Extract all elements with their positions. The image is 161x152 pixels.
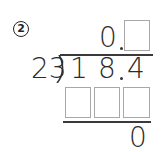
product-answer-box-3[interactable] — [123, 87, 150, 118]
quotient-tenths-answer-box[interactable] — [124, 20, 150, 51]
product-answer-box-2[interactable] — [94, 87, 120, 118]
divisor: 23 — [31, 55, 67, 83]
product-answer-box-1[interactable] — [65, 87, 91, 118]
dividend-digit-ones: 1 — [70, 55, 88, 83]
dividend-digit-tens: 8 — [98, 55, 116, 83]
dividend-digit-tenths: 4 — [127, 55, 145, 83]
quotient-decimal-point — [120, 47, 123, 50]
dividend-decimal-point — [120, 77, 123, 80]
quotient-whole-digit: 0 — [99, 24, 117, 52]
problem-number-badge: 2 — [13, 21, 29, 37]
remainder: 0 — [129, 124, 147, 152]
